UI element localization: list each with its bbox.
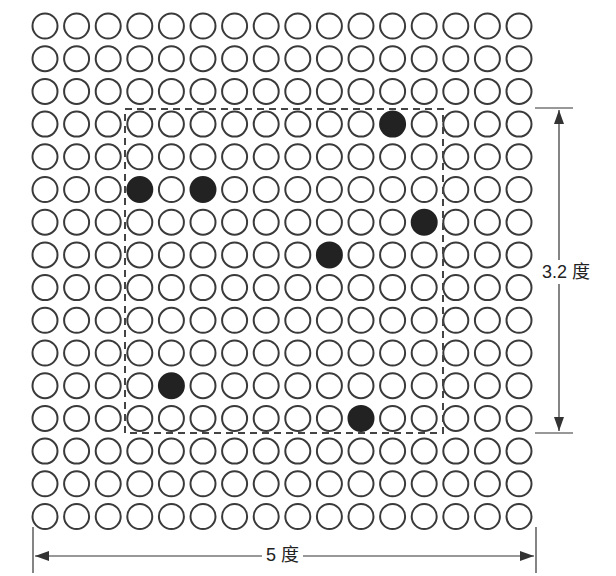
empty-dot [317, 210, 342, 235]
empty-dot [285, 471, 310, 496]
empty-dot [475, 439, 500, 464]
empty-dot [412, 112, 437, 137]
empty-dot [507, 210, 532, 235]
empty-dot [285, 144, 310, 169]
empty-dot [507, 373, 532, 398]
empty-dot [507, 79, 532, 104]
empty-dot [33, 275, 58, 300]
empty-dot [507, 177, 532, 202]
empty-dot [254, 504, 279, 529]
empty-dot [412, 439, 437, 464]
empty-dot [349, 341, 374, 366]
empty-dot [191, 14, 216, 39]
empty-dot [127, 439, 152, 464]
empty-dot [285, 79, 310, 104]
empty-dot [191, 210, 216, 235]
empty-dot [96, 308, 121, 333]
filled-dot [412, 210, 437, 235]
empty-dot [507, 439, 532, 464]
empty-dot [64, 112, 89, 137]
empty-dot [64, 471, 89, 496]
empty-dot [443, 504, 468, 529]
empty-dot [443, 439, 468, 464]
empty-dot [443, 144, 468, 169]
empty-dot [443, 210, 468, 235]
empty-dot [380, 504, 405, 529]
empty-dot [317, 144, 342, 169]
empty-dot [475, 177, 500, 202]
empty-dot [64, 504, 89, 529]
empty-dot [443, 373, 468, 398]
empty-dot [254, 471, 279, 496]
empty-dot [127, 308, 152, 333]
empty-dot [222, 144, 247, 169]
empty-dot [254, 79, 279, 104]
empty-dot [380, 79, 405, 104]
empty-dot [317, 112, 342, 137]
height-label: 3.2 度 [542, 260, 590, 284]
empty-dot [33, 177, 58, 202]
empty-dot [191, 471, 216, 496]
dot-array-diagram [0, 0, 616, 576]
empty-dot [191, 79, 216, 104]
empty-dot [475, 210, 500, 235]
empty-dot [159, 210, 184, 235]
empty-dot [64, 439, 89, 464]
empty-dot [222, 79, 247, 104]
empty-dot [64, 242, 89, 267]
empty-dot [317, 439, 342, 464]
empty-dot [159, 144, 184, 169]
empty-dot [443, 177, 468, 202]
empty-dot [285, 46, 310, 71]
empty-dot [412, 471, 437, 496]
empty-dot [349, 471, 374, 496]
empty-dot [475, 308, 500, 333]
empty-dot [443, 242, 468, 267]
empty-dot [191, 112, 216, 137]
empty-dot [254, 144, 279, 169]
empty-dot [380, 275, 405, 300]
empty-dot [507, 308, 532, 333]
empty-dot [96, 373, 121, 398]
empty-dot [222, 341, 247, 366]
empty-dot [64, 14, 89, 39]
empty-dot [33, 471, 58, 496]
empty-dot [254, 439, 279, 464]
empty-dot [222, 210, 247, 235]
empty-dot [191, 275, 216, 300]
empty-dot [285, 406, 310, 431]
empty-dot [127, 242, 152, 267]
empty-dot [285, 275, 310, 300]
empty-dot [159, 177, 184, 202]
empty-dot [64, 275, 89, 300]
empty-dot [64, 406, 89, 431]
empty-dot [475, 471, 500, 496]
filled-dot [159, 373, 184, 398]
empty-dot [412, 406, 437, 431]
empty-dot [412, 14, 437, 39]
empty-dot [33, 112, 58, 137]
empty-dot [96, 14, 121, 39]
filled-dot [317, 242, 342, 267]
empty-dot [443, 14, 468, 39]
empty-dot [159, 242, 184, 267]
empty-dot [349, 46, 374, 71]
empty-dot [127, 275, 152, 300]
empty-dot [475, 79, 500, 104]
empty-dot [222, 242, 247, 267]
empty-dot [191, 504, 216, 529]
empty-dot [349, 112, 374, 137]
empty-dot [475, 46, 500, 71]
empty-dot [254, 275, 279, 300]
empty-dot [285, 373, 310, 398]
empty-dot [349, 504, 374, 529]
empty-dot [349, 242, 374, 267]
empty-dot [191, 439, 216, 464]
empty-dot [64, 79, 89, 104]
empty-dot [33, 46, 58, 71]
empty-dot [254, 373, 279, 398]
empty-dot [507, 275, 532, 300]
empty-dot [159, 308, 184, 333]
empty-dot [285, 14, 310, 39]
empty-dot [475, 242, 500, 267]
